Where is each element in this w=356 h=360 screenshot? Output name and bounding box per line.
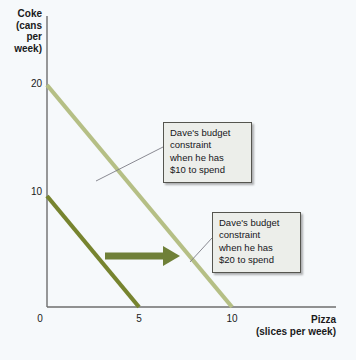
- annotation-budget-20: Dave's budget constraint when he has $20…: [212, 212, 301, 273]
- leader-line-budget-10: [96, 147, 163, 181]
- leader-line-budget-20: [190, 238, 212, 262]
- budget-line-10: [47, 196, 139, 307]
- y-tick-label-10: 10: [20, 186, 42, 197]
- x-axis-title: Pizza (slices per week): [226, 314, 336, 337]
- shift-arrow-icon: [105, 246, 180, 266]
- budget-constraint-chart: Coke (cans per week) Pizza (slices per w…: [0, 0, 356, 360]
- x-tick-label-0: 0: [33, 313, 47, 324]
- x-tick-label-5: 5: [132, 313, 146, 324]
- y-axis-title: Coke (cans per week): [2, 8, 42, 54]
- annotation-budget-10: Dave's budget constraint when he has $10…: [163, 122, 252, 183]
- budget-line-20: [47, 85, 232, 307]
- x-tick-label-10: 10: [222, 313, 242, 324]
- y-tick-label-20: 20: [20, 78, 42, 89]
